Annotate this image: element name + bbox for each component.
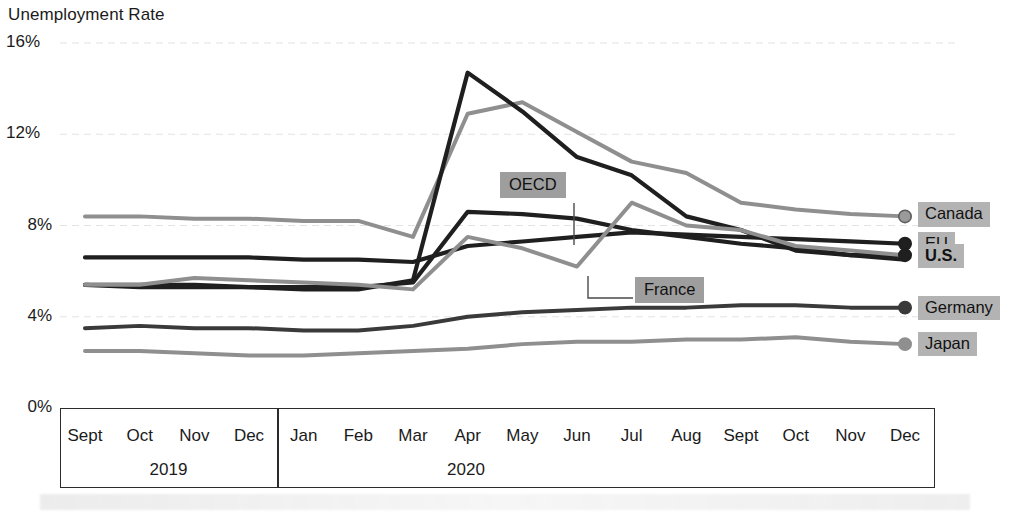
endpoint-marker-japan (899, 338, 911, 350)
x-axis-label-15: Dec (873, 426, 937, 446)
year-group-divider (277, 408, 279, 488)
callout-oecd: OECD (500, 172, 566, 198)
callout-france: France (635, 277, 704, 303)
x-axis-year-2019: 2019 (129, 460, 209, 480)
series-line-oecd (85, 212, 905, 287)
endpoint-marker-canada (899, 210, 911, 222)
unemployment-rate-chart: Unemployment Rate 0%4%8%12%16% SeptOctNo… (0, 0, 1015, 515)
series-label-germany: Germany (918, 296, 1000, 320)
endpoint-marker-germany (899, 301, 911, 313)
endpoint-marker-u-s- (899, 249, 911, 261)
series-line-canada (85, 102, 905, 237)
scan-artifact (40, 494, 970, 510)
series-line-germany (85, 305, 905, 330)
callout-leader-france (588, 276, 633, 298)
series-line-japan (85, 337, 905, 355)
series-label-u-s-: U.S. (918, 244, 964, 268)
series-label-japan: Japan (918, 332, 977, 356)
series-label-canada: Canada (918, 202, 990, 226)
endpoint-marker-eu (899, 238, 911, 250)
x-axis-year-2020: 2020 (426, 460, 506, 480)
